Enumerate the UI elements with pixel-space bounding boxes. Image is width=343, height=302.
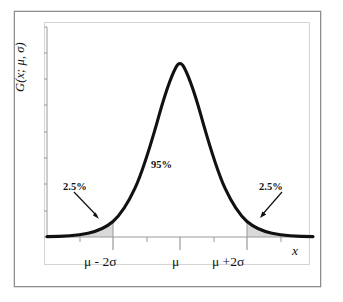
left-tail-label-2point5-percent: 2.5% bbox=[63, 182, 87, 193]
tail-boundary-lines bbox=[113, 222, 247, 238]
y-axis-label: G(x; μ, σ) bbox=[14, 42, 27, 92]
x-tick-label-mu-minus-2sigma: μ - 2σ bbox=[84, 255, 117, 269]
x-tick-label-mu: μ bbox=[172, 255, 179, 269]
right-tail-label-2point5-percent: 2.5% bbox=[259, 182, 283, 193]
center-region-label-95-percent: 95% bbox=[151, 160, 172, 171]
x-tick-label-mu-plus-2sigma: μ +2σ bbox=[212, 255, 244, 269]
y-axis-label-text: G(x; μ, σ) bbox=[13, 42, 27, 92]
x-axis-major-ticks bbox=[113, 237, 247, 250]
right-annotation-arrow bbox=[260, 192, 282, 218]
normal-distribution-figure: G(x; μ, σ) x μ - 2σ μ μ +2σ 95% 2.5% 2.5… bbox=[0, 0, 343, 302]
left-annotation-arrow bbox=[74, 192, 99, 219]
x-axis-label: x bbox=[292, 244, 298, 258]
gaussian-curve bbox=[47, 64, 313, 237]
